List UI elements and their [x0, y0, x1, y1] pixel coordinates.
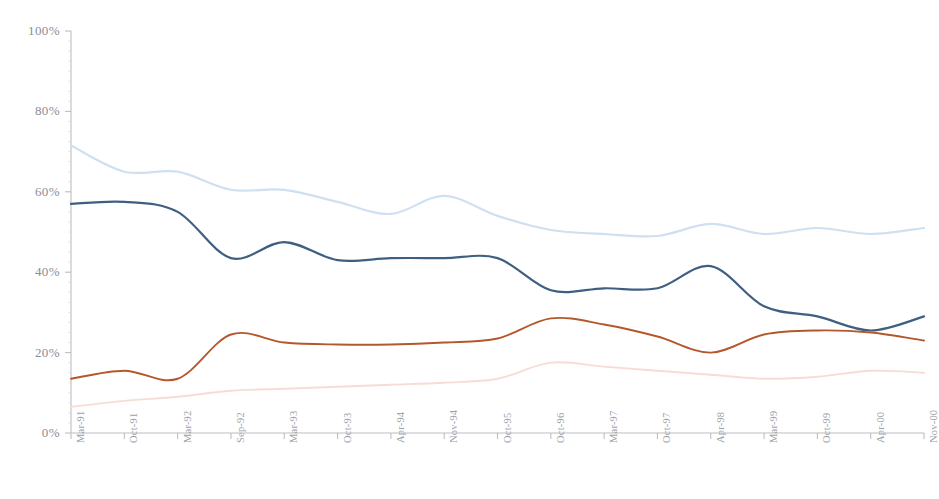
- y-axis-tick-label: 0%: [14, 425, 60, 441]
- x-axis-tick-label: Mar-97: [608, 411, 619, 443]
- x-axis-tick-label: Sep-92: [235, 412, 246, 443]
- x-axis-tick-label: Oct-93: [342, 413, 353, 443]
- x-axis-tick-label: Mar-91: [75, 411, 86, 443]
- data-series-group: [71, 146, 924, 407]
- x-axis-tick-label: Nov-94: [448, 410, 459, 443]
- x-axis-tick-label: Oct-96: [555, 413, 566, 443]
- x-axis-tick-label: Oct-95: [502, 413, 513, 443]
- x-axis-tick-label: Apr-98: [715, 412, 726, 443]
- x-axis-ticks: [71, 433, 924, 439]
- series-dark-orange: [71, 318, 924, 380]
- x-axis-tick-label: Mar-93: [288, 411, 299, 443]
- x-axis-tick-label: Mar-92: [182, 411, 193, 443]
- y-axis-tick-label: 40%: [14, 264, 60, 280]
- x-axis-tick-label: Apr-94: [395, 412, 406, 443]
- x-axis-tick-label: Oct-99: [821, 413, 832, 443]
- x-axis-tick-label: Nov-00: [928, 410, 939, 443]
- series-dark-blue: [71, 202, 924, 331]
- y-axis-tick-label: 100%: [14, 23, 60, 39]
- series-light-blue: [71, 146, 924, 237]
- y-axis-tick-label: 60%: [14, 184, 60, 200]
- y-axis-tick-label: 80%: [14, 103, 60, 119]
- series-light-pink: [71, 362, 924, 407]
- x-axis-tick-label: Mar-99: [768, 411, 779, 443]
- x-axis-tick-label: Oct-97: [661, 413, 672, 443]
- x-axis-tick-label: Apr-00: [875, 412, 886, 443]
- x-axis-tick-label: Oct-91: [128, 413, 139, 443]
- y-axis-tick-label: 20%: [14, 345, 60, 361]
